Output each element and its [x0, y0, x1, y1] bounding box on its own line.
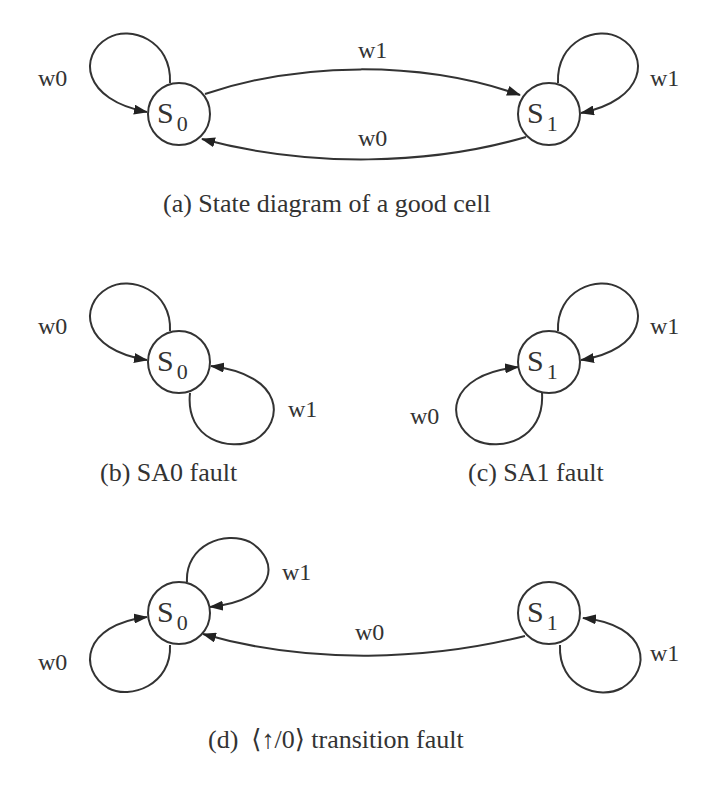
state-diagram-figure: w0 w1 w0 w1 S0 S1 (a) State diagram of a…	[0, 0, 719, 800]
edge-label-a-s1-to-s0: w0	[358, 125, 387, 151]
edge-label-a-s0-self: w0	[38, 65, 67, 91]
edge-label-d-s1-w1: w1	[650, 640, 679, 666]
panel-d-transition-fault: w1 w0 w0 w1 S0 S1 (d) ⟨↑/0⟩ transition f…	[38, 538, 679, 754]
edge-label-a-s0-to-s1: w1	[358, 37, 387, 63]
edge-label-d-s0-w1: w1	[282, 559, 311, 585]
state-node-b-s0: S0	[148, 331, 210, 393]
state-node-c-s1: S1	[518, 331, 580, 393]
edge-a-s0-to-s1-w1	[205, 69, 520, 95]
panel-c-sa1-fault: w1 w0 S1 (c) SA1 fault	[410, 283, 679, 487]
state-node-a-s1: S1	[518, 83, 580, 145]
state-node-d-s0: S0	[148, 582, 210, 644]
edge-label-b-w0: w0	[38, 313, 67, 339]
edge-label-a-s1-self: w1	[650, 65, 679, 91]
edge-label-b-w1: w1	[288, 396, 317, 422]
caption-a: (a) State diagram of a good cell	[163, 189, 491, 218]
edge-label-c-w0: w0	[410, 403, 439, 429]
edge-label-c-w1: w1	[650, 313, 679, 339]
caption-b: (b) SA0 fault	[100, 458, 238, 487]
panel-a-good-cell: w0 w1 w0 w1 S0 S1 (a) State diagram of a…	[38, 33, 679, 218]
edge-label-d-s0-w0: w0	[38, 649, 67, 675]
edge-label-d-s1-to-s0: w0	[355, 619, 384, 645]
caption-c: (c) SA1 fault	[468, 458, 605, 487]
caption-d: (d) ⟨↑/0⟩ transition fault	[208, 725, 464, 754]
state-node-a-s0: S0	[148, 83, 210, 145]
panel-b-sa0-fault: w0 w1 S0 (b) SA0 fault	[38, 283, 317, 487]
state-node-d-s1: S1	[518, 582, 580, 644]
